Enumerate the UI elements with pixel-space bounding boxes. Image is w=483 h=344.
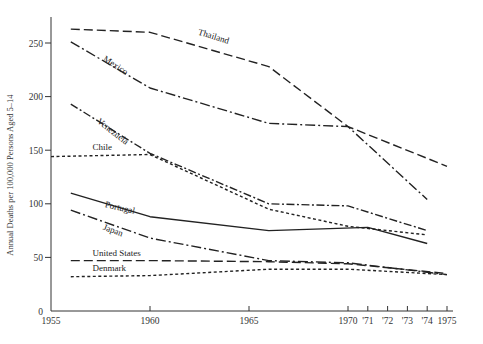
series-label-united-states: United States [93, 248, 142, 258]
series-label-portugal: Portugal [104, 199, 136, 216]
x-tick-label: '74 [422, 316, 433, 326]
series-label-denmark: Denmark [93, 263, 127, 273]
series-line-thailand [71, 29, 447, 166]
x-tick-label: '72 [382, 316, 393, 326]
series-label-japan: Japan [102, 222, 125, 239]
series-labels: ThailandMexicoVenezuelaChilePortugalJapa… [93, 27, 231, 274]
x-tick-label: 1955 [42, 316, 61, 326]
line-chart: Annual Deaths per 100,000 Persons Aged 5… [0, 0, 483, 344]
series-label-chile: Chile [93, 142, 113, 152]
y-tick-label: 250 [29, 39, 44, 49]
y-axis-title: Annual Deaths per 100,000 Persons Aged 5… [5, 94, 15, 256]
y-ticks: 050100150200250 [29, 39, 51, 317]
x-tick-label: 1960 [141, 316, 160, 326]
series-label-mexico: Mexico [101, 53, 130, 77]
y-tick-label: 0 [38, 307, 43, 317]
series-line-denmark [71, 269, 447, 277]
series-line-portugal [71, 193, 427, 243]
y-tick-label: 100 [29, 199, 44, 209]
x-tick-label: 1965 [240, 316, 259, 326]
x-tick-label: '71 [362, 316, 373, 326]
x-ticks: 1955196019651970'71'72'73'741975 [42, 306, 457, 326]
x-tick-label: 1975 [438, 316, 457, 326]
series-label-thailand: Thailand [197, 27, 231, 46]
y-tick-label: 200 [29, 92, 44, 102]
y-tick-label: 50 [34, 253, 44, 263]
x-tick-label: '73 [402, 316, 413, 326]
x-tick-label: 1970 [339, 316, 358, 326]
y-tick-label: 150 [29, 146, 44, 156]
y-axis-title-group: Annual Deaths per 100,000 Persons Aged 5… [5, 94, 15, 256]
